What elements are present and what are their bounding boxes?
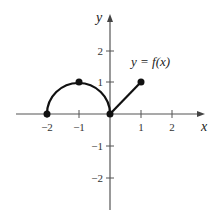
x-tick-label: 2 — [169, 121, 175, 133]
point-origin — [107, 111, 114, 118]
x-axis-label: x — [200, 119, 208, 134]
y-tick-label: 1 — [98, 76, 104, 88]
y-tick-label: −1 — [91, 140, 103, 152]
function-graph: −2 −1 1 2 2 1 −1 −2 x y y = f(x) — [0, 0, 219, 220]
x-tick-label: −2 — [41, 121, 53, 133]
y-axis-arrow-icon — [107, 14, 113, 22]
x-tick-label: −1 — [73, 121, 85, 133]
y-tick-label: 2 — [98, 45, 104, 57]
x-tick-label: 1 — [138, 121, 144, 133]
function-label: y = f(x) — [129, 54, 170, 69]
x-axis-arrow-icon — [197, 111, 205, 117]
y-axis-label: y — [94, 10, 103, 25]
y-tick-label: −2 — [91, 172, 103, 184]
line-segment — [110, 82, 141, 114]
point-1-1 — [138, 79, 145, 86]
point-neg1-1 — [76, 79, 83, 86]
point-neg2-0 — [44, 111, 51, 118]
